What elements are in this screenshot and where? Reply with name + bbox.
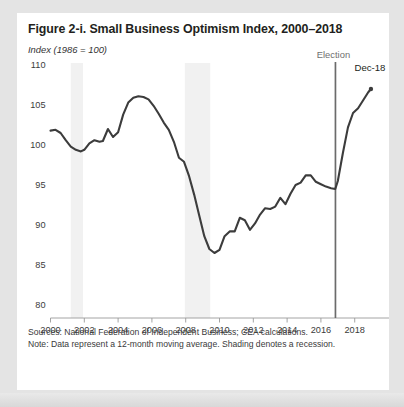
- endpoint-marker: [369, 87, 373, 91]
- series-line-group: [51, 89, 371, 253]
- recession-band: [71, 63, 83, 318]
- y-tick-label: 100: [30, 140, 45, 150]
- y-tick-label: 105: [30, 100, 45, 110]
- recession-band: [185, 63, 210, 318]
- series-line: [51, 89, 371, 253]
- source-note: Sources: National Federation of Independ…: [28, 327, 380, 339]
- recession-shading-group: [71, 63, 210, 318]
- data-note: Note: Data represent a 12-month moving a…: [28, 339, 380, 351]
- y-tick-label: 80: [35, 300, 45, 310]
- page-bottom-edge: [0, 393, 404, 407]
- election-annotation-label: Election: [317, 49, 350, 60]
- y-tick-label: 95: [35, 180, 45, 190]
- endpoint-label: Dec-18: [354, 62, 385, 73]
- y-tick-label: 85: [35, 260, 45, 270]
- y-tick-label: 110: [31, 60, 46, 70]
- page-background: Figure 2-i. Small Business Optimism Inde…: [0, 0, 404, 407]
- figure-notes: Sources: National Federation of Independ…: [28, 327, 380, 350]
- y-tick-label: 90: [35, 220, 45, 230]
- endpoint-group: Dec-18: [354, 62, 385, 91]
- figure-card: Figure 2-i. Small Business Optimism Inde…: [17, 13, 389, 390]
- y-axis-tick-group: 11010510095908580: [30, 60, 45, 310]
